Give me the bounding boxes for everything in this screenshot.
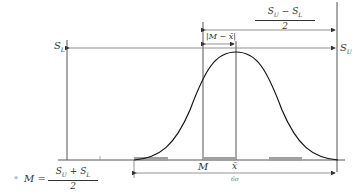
footnote-fraction: SU + SL 2 bbox=[48, 166, 98, 192]
footnote-lhs: M = bbox=[24, 173, 46, 184]
shade-right bbox=[269, 157, 302, 161]
footnote-bullet: * bbox=[14, 175, 18, 184]
offset-label: |M − x̄| bbox=[206, 32, 236, 41]
half-tolerance-label: SU − SL 2 bbox=[255, 6, 315, 32]
capability-diagram: SL SU SU − SL 2 |M − x̄| M x̄ 6σ * M = S… bbox=[0, 0, 359, 196]
midpoint-label: M bbox=[198, 161, 208, 172]
lower-spec-label: SL bbox=[54, 40, 65, 53]
six-sigma-label: 6σ bbox=[231, 175, 239, 182]
upper-spec-label: SU bbox=[340, 42, 352, 55]
mean-label: x̄ bbox=[232, 161, 237, 171]
